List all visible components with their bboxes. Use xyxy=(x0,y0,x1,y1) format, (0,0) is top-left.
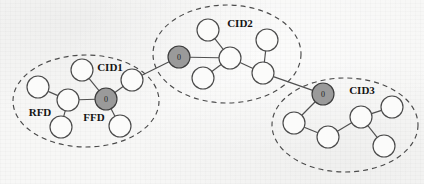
cluster-label-cid3: CID3 xyxy=(349,84,375,96)
ffd-label: FFD xyxy=(83,111,104,123)
device-node-c2-n1 xyxy=(197,19,219,41)
device-node-c2-n4 xyxy=(256,29,278,51)
device-node-c2-n5 xyxy=(252,62,274,84)
edge-intra-c3-n2-c3-n3 xyxy=(337,123,351,132)
edge-intra-c3-c0-c3-n1 xyxy=(302,102,315,115)
device-node-c2-n3 xyxy=(192,67,214,89)
cluster-label-cid2: CID2 xyxy=(227,17,253,29)
device-node-c1-n1 xyxy=(71,59,93,81)
edge-intra-c3-n3-c3-n5 xyxy=(368,126,377,138)
edge-inter-c2-n5-c3-c0 xyxy=(273,77,312,91)
node-label-c1-c0: 0 xyxy=(104,95,108,104)
device-node-c1-n5 xyxy=(121,69,143,91)
edge-intra-c2-n3-c2-n2 xyxy=(212,65,221,72)
edge-intra-c1-n1-c1-c0 xyxy=(89,78,99,90)
node-label-c2-c0: 0 xyxy=(177,53,181,62)
device-node-c3-n5 xyxy=(373,135,395,157)
cluster-label-cid1: CID1 xyxy=(97,61,123,73)
device-node-c1-n4 xyxy=(50,116,72,138)
device-node-c2-n2 xyxy=(219,47,241,69)
edge-intra-c3-n1-c3-n2 xyxy=(304,127,318,133)
device-node-c1-n6 xyxy=(109,115,131,137)
edge-intra-c3-n3-c3-n4 xyxy=(371,110,381,113)
device-node-c3-n1 xyxy=(283,112,305,134)
edge-intra-c1-c0-c1-n5 xyxy=(115,86,123,92)
edge-intra-c1-c0-c1-n6 xyxy=(111,109,115,116)
device-node-c3-n2 xyxy=(317,126,339,148)
device-node-c3-n4 xyxy=(381,96,403,118)
device-node-c1-n2 xyxy=(27,76,49,98)
node-label-c3-c0: 0 xyxy=(321,90,325,99)
edge-intra-c1-n3-c1-n4 xyxy=(64,111,65,117)
edge-inter-c1-n5-c2-c0 xyxy=(142,62,169,75)
rfd-label: RFD xyxy=(29,106,52,118)
edge-intra-c2-c0-c2-n2 xyxy=(190,57,219,58)
device-node-c1-n3 xyxy=(57,89,79,111)
cluster-tree-diagram: 000CID1CID2CID3RFDFFD xyxy=(0,0,424,184)
edge-intra-c2-n2-c2-n5 xyxy=(240,63,253,69)
device-node-c3-n3 xyxy=(350,106,372,128)
network-topology-figure: 000CID1CID2CID3RFDFFD xyxy=(0,0,424,184)
edge-intra-c2-n1-c2-n2 xyxy=(215,39,223,50)
edge-intra-c2-n4-c2-n5 xyxy=(264,51,265,62)
edge-intra-c1-n2-c1-n3 xyxy=(48,91,58,95)
